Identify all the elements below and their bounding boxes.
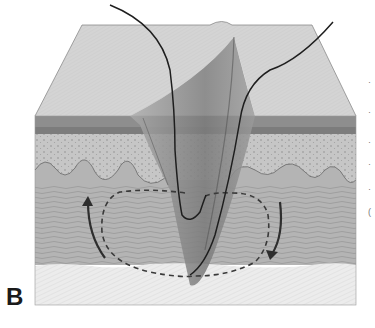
skin-cross-section-illustration (0, 0, 375, 328)
cropped-side-text: · (368, 78, 375, 87)
suture-skin-diagram: B · · · · · ( (0, 0, 375, 328)
cropped-side-text: ( (368, 208, 375, 217)
cropped-side-text: · (368, 138, 375, 147)
cropped-side-text: · (368, 185, 375, 194)
cropped-side-text: · (368, 160, 375, 169)
cropped-side-text: · (368, 108, 375, 117)
panel-label: B (6, 285, 23, 309)
